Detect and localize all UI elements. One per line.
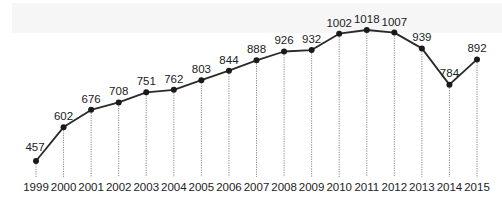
data-point-marker	[446, 82, 452, 88]
data-point-marker	[336, 31, 342, 37]
data-label: 784	[440, 67, 460, 79]
data-point-marker	[391, 30, 397, 36]
data-point-marker	[309, 47, 315, 53]
data-label: 676	[82, 93, 101, 105]
line-chart: 4576026767087517628038448889269321002101…	[0, 0, 502, 200]
data-label: 932	[302, 33, 321, 45]
x-axis-tick-label: 2003	[133, 181, 159, 193]
x-axis-tick-label: 2000	[51, 181, 77, 193]
x-axis-tick-label: 1999	[23, 181, 49, 193]
data-point-marker	[474, 56, 480, 62]
data-point-marker	[33, 158, 39, 164]
data-point-marker	[143, 89, 149, 95]
x-axis-tick-label: 2006	[216, 181, 242, 193]
data-label: 844	[219, 54, 239, 66]
data-label: 1002	[326, 17, 352, 29]
x-axis-tick-label: 2005	[189, 181, 215, 193]
data-point-marker	[281, 48, 287, 54]
data-label: 602	[54, 110, 73, 122]
data-label: 708	[109, 85, 128, 97]
x-axis-tick-label: 2008	[271, 181, 297, 193]
x-axis-tick-label: 2002	[106, 181, 132, 193]
data-label: 1018	[354, 13, 380, 25]
x-axis-tick-label: 2009	[299, 181, 325, 193]
data-point-marker	[364, 27, 370, 33]
data-label: 457	[25, 141, 44, 153]
x-axis-tick-label: 2012	[382, 181, 408, 193]
data-label: 892	[467, 42, 486, 54]
x-axis-tick-label: 2010	[326, 181, 352, 193]
data-label: 762	[164, 73, 183, 85]
x-axis-tick-label: 2013	[409, 181, 435, 193]
data-point-marker	[419, 45, 425, 51]
data-point-marker	[198, 77, 204, 83]
data-point-marker	[254, 57, 260, 63]
x-axis-tick-label: 2004	[161, 181, 187, 193]
data-label: 803	[192, 63, 211, 75]
x-axis-tick-label: 2001	[78, 181, 104, 193]
data-label: 1007	[382, 16, 408, 28]
data-point-marker	[171, 87, 177, 93]
x-axis-tick-label: 2007	[244, 181, 270, 193]
x-axis-tick-label: 2014	[437, 181, 463, 193]
data-point-marker	[226, 68, 232, 74]
data-label: 926	[274, 34, 293, 46]
data-point-marker	[116, 99, 122, 105]
x-axis-tick-label: 2015	[464, 181, 490, 193]
data-label: 939	[412, 31, 431, 43]
data-label: 888	[247, 43, 266, 55]
data-label: 751	[137, 75, 156, 87]
data-point-marker	[61, 124, 67, 130]
x-axis-tick-label: 2011	[354, 181, 379, 193]
data-point-marker	[88, 107, 94, 113]
